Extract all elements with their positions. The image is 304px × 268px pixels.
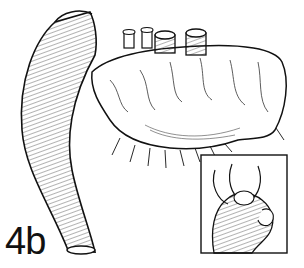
surgical-illustration	[0, 0, 304, 268]
intestine-loop	[92, 46, 286, 149]
vessel-stumps	[123, 28, 206, 56]
figure-label: 4b	[5, 222, 45, 260]
bowel-segment	[21, 11, 96, 254]
inset-detail	[201, 155, 287, 253]
